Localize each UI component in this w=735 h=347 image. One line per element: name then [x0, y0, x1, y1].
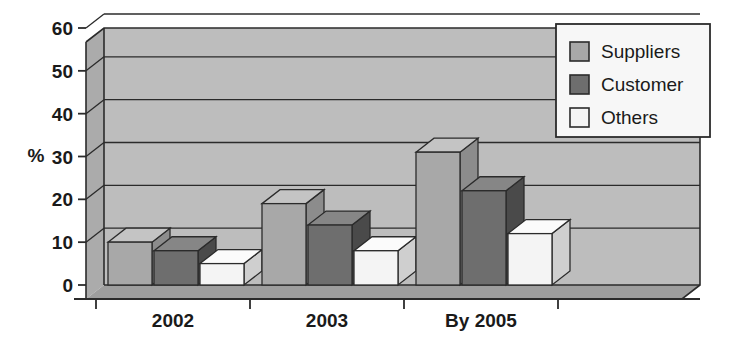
x-tick-label-1: 2003 [306, 310, 348, 331]
y-tick-label-10: 10 [52, 232, 73, 253]
legend: SuppliersCustomerOthers [556, 24, 710, 137]
chart-canvas: 0102030405060 % 20022003By 2005 Supplier… [0, 0, 735, 347]
legend-item-customer[interactable]: Customer [570, 74, 684, 95]
bar-front-face [416, 152, 460, 285]
x-tick-label-2: By 2005 [445, 310, 517, 331]
bar-front-face [508, 234, 552, 285]
bar-front-face [462, 191, 506, 285]
bar-front-face [108, 242, 152, 285]
gridline-edge-60 [86, 14, 104, 28]
bar-chart: 0102030405060 % 20022003By 2005 Supplier… [0, 0, 735, 347]
legend-swatch-others [570, 108, 589, 127]
bar-others-by-2005 [508, 220, 570, 285]
legend-label-customer: Customer [601, 74, 684, 95]
y-tick-label-50: 50 [52, 61, 73, 82]
y-tick-label-40: 40 [52, 104, 73, 125]
bar-front-face [154, 251, 198, 285]
legend-label-suppliers: Suppliers [601, 41, 680, 62]
y-tick-label-60: 60 [52, 18, 73, 39]
x-tick-label-0: 2002 [152, 310, 194, 331]
y-tick-label-30: 30 [52, 147, 73, 168]
legend-swatch-customer [570, 75, 589, 94]
x-axis: 20022003By 2005 [74, 299, 700, 331]
y-axis-title: % [28, 145, 45, 166]
y-axis: 0102030405060 [52, 18, 86, 296]
bar-others-2003 [354, 237, 416, 285]
plot-floor [86, 285, 700, 299]
bar-front-face [354, 251, 398, 285]
legend-item-others[interactable]: Others [570, 107, 658, 128]
bar-front-face [308, 225, 352, 285]
y-tick-label-20: 20 [52, 189, 73, 210]
bar-front-face [200, 264, 244, 285]
legend-label-others: Others [601, 107, 658, 128]
legend-item-suppliers[interactable]: Suppliers [570, 41, 680, 62]
bar-front-face [262, 204, 306, 285]
y-tick-label-0: 0 [62, 275, 73, 296]
legend-swatch-suppliers [570, 42, 589, 61]
